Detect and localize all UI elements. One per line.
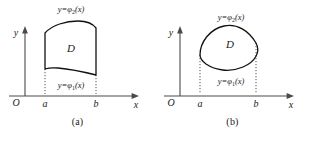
x-axis-b bbox=[164, 93, 294, 99]
y-axis-a bbox=[22, 26, 28, 96]
origin-label-b: O bbox=[167, 97, 174, 108]
lower-curve-label-b: y=φ1(x) bbox=[217, 76, 245, 87]
left-bound-label-b: a bbox=[198, 98, 203, 109]
figure-panel-b: y x O a b D y=φ2(x) y=φ1(x) (b) bbox=[155, 0, 310, 144]
x-axis-label-a: x bbox=[133, 99, 139, 110]
lower-curve-label-b-prefix: y= bbox=[217, 76, 228, 86]
upper-curve-label-a-suffix: (x) bbox=[75, 4, 85, 14]
y-axis-b bbox=[177, 26, 183, 96]
region-label-a: D bbox=[66, 42, 75, 54]
figure-sheet: y x O a b D y=φ2(x) y=φ1(x) (a) bbox=[0, 0, 310, 144]
right-bound-label-a: b bbox=[94, 98, 99, 109]
upper-curve-label-a: y=φ2(x) bbox=[57, 4, 85, 15]
upper-curve-label-b-prefix: y= bbox=[217, 12, 228, 22]
x-axis-label-b: x bbox=[288, 99, 294, 110]
figure-caption-b: (b) bbox=[155, 116, 310, 127]
upper-curve-label-b: y=φ2(x) bbox=[217, 12, 245, 23]
lower-curve-label-a-prefix: y= bbox=[57, 80, 68, 90]
lower-curve-label-a-suffix: (x) bbox=[75, 80, 85, 90]
figure-caption-a: (a) bbox=[0, 116, 155, 127]
y-axis-label-b: y bbox=[168, 27, 174, 38]
region-label-b: D bbox=[225, 38, 234, 50]
right-bound-label-b: b bbox=[254, 98, 259, 109]
lower-curve-label-a: y=φ1(x) bbox=[57, 80, 85, 91]
x-axis-a bbox=[9, 93, 139, 99]
figure-panel-a: y x O a b D y=φ2(x) y=φ1(x) (a) bbox=[0, 0, 155, 144]
left-bound-label-a: a bbox=[43, 98, 48, 109]
y-axis-label-a: y bbox=[13, 27, 19, 38]
origin-label-a: O bbox=[12, 97, 19, 108]
lower-curve-label-b-suffix: (x) bbox=[235, 76, 245, 86]
upper-curve-label-a-prefix: y= bbox=[57, 4, 68, 14]
upper-curve-label-b-suffix: (x) bbox=[235, 12, 245, 22]
